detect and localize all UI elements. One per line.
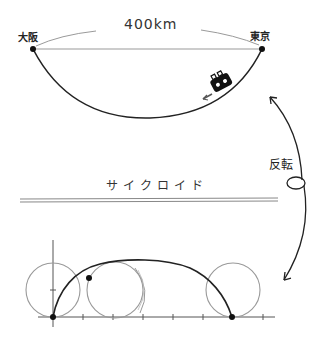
osaka-label: 大阪 [18,29,38,44]
separator-line-bottom [20,201,278,202]
cycloid-moving-point [86,275,92,281]
distance-label: 400km [124,16,177,32]
train-icon [207,68,233,92]
flip-label: 反転 [269,155,293,172]
cycloid-title: サイクロイド [106,176,208,193]
rolling-circle-3 [206,263,260,317]
cycloid-start-point [50,314,56,320]
curved-double-arrow-icon [270,97,306,280]
diagram-canvas [0,0,328,347]
osaka-point [30,46,36,52]
arrow-icon [203,94,212,100]
tokyo-label: 東京 [250,28,270,43]
separator-line-top [20,198,278,199]
tokyo-point [259,46,265,52]
cycloid-end-point [229,314,235,320]
distance-arc-left [36,31,96,46]
rolling-circle-2 [87,262,143,318]
